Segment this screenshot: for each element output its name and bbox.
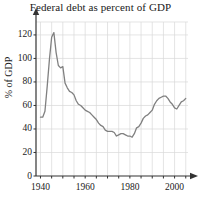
x-tick-label: 1960 — [68, 182, 102, 192]
data-series-layer — [40, 33, 185, 138]
y-tick-label: 20 — [6, 147, 32, 157]
x-tick-label: 2000 — [158, 182, 192, 192]
x-axis-arrowhead — [190, 173, 198, 179]
y-tick-label: 120 — [6, 29, 32, 39]
x-tick-label: 1980 — [113, 182, 147, 192]
y-tick-label: 80 — [6, 76, 32, 86]
y-tick-label: 40 — [6, 123, 32, 133]
axis-layer — [33, 8, 198, 179]
data-line — [40, 33, 185, 138]
y-tick-label: 0 — [6, 171, 32, 181]
grid-layer — [36, 22, 188, 176]
y-axis-arrowhead — [33, 8, 39, 15]
y-tick-label: 60 — [6, 100, 32, 110]
chart-figure: Federal debt as percent of GDP % of GDP … — [0, 0, 201, 206]
y-tick-label: 100 — [6, 53, 32, 63]
x-tick-label: 1940 — [23, 182, 57, 192]
